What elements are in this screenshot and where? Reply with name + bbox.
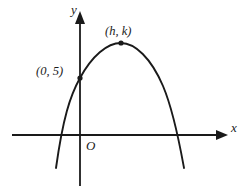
y-intercept-label: (0, 5) — [36, 65, 63, 78]
x-axis-arrowhead — [216, 130, 228, 140]
vertex-label: (h, k) — [105, 25, 131, 38]
origin-label: O — [86, 139, 95, 152]
parabola-figure: y x O (h, k) (0, 5) — [0, 0, 247, 192]
vertex-point — [118, 40, 123, 45]
parabola-curve — [56, 43, 184, 168]
y-axis-label: y — [71, 3, 77, 16]
x-axis-label: x — [231, 121, 237, 134]
y-intercept-point — [77, 75, 82, 80]
